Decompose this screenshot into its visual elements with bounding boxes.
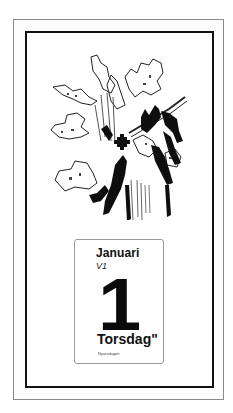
month-label: Januari [96, 246, 139, 260]
holiday-label: Nyårsdagen [98, 351, 120, 356]
flower-illustration-icon [45, 45, 195, 220]
date-card: Januari V1 1 Torsdag" Nyårsdagen [74, 239, 164, 364]
weekday-label: Torsdag" [97, 331, 158, 347]
